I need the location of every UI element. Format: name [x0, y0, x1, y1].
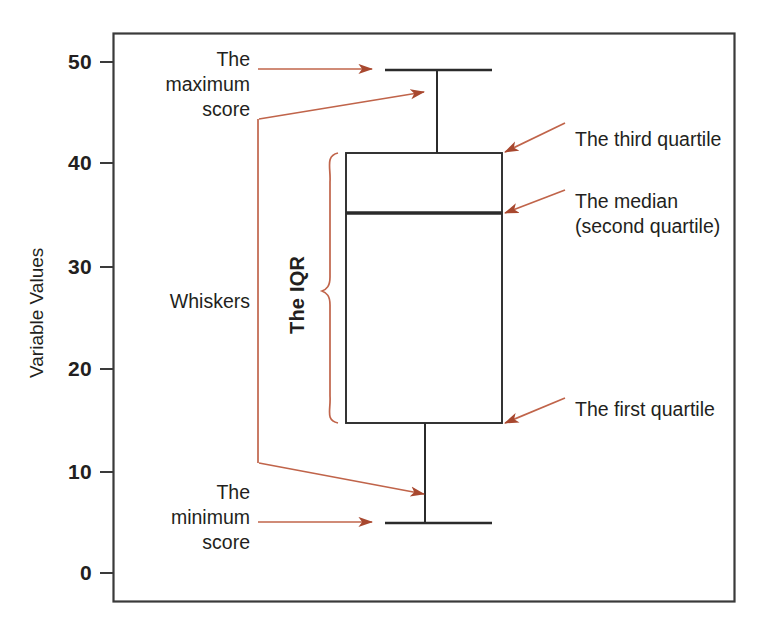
iqr-box [346, 153, 502, 423]
annotation-maximum-score-line2: maximum [120, 73, 250, 96]
annotation-minimum-score-line2: minimum [120, 506, 250, 529]
annotation-iqr: The IQR [286, 256, 310, 334]
annotation-maximum-score-line3: score [120, 98, 250, 121]
whiskers-lower-leader [259, 463, 424, 494]
annotation-third-quartile: The third quartile [575, 128, 721, 151]
y-tick-label-20: 20 [40, 357, 92, 382]
y-tick-label-0: 0 [40, 561, 92, 586]
boxplot-drawing [0, 0, 778, 620]
y-tick-label-10: 10 [40, 460, 92, 485]
y-tick-label-40: 40 [40, 151, 92, 176]
iqr-brace [322, 153, 338, 423]
boxplot-glyph [346, 70, 502, 523]
annotation-median-line1: The median [575, 190, 678, 213]
median-leader [505, 190, 565, 213]
whiskers-upper-leader [259, 92, 424, 119]
boxplot-anatomy-figure: Variable Values 50 40 30 20 10 0 The max… [0, 0, 778, 620]
annotation-minimum-score-line3: score [120, 531, 250, 554]
third-quartile-leader [505, 123, 565, 152]
y-tick-label-30: 30 [40, 255, 92, 280]
annotation-minimum-score-line1: The [120, 481, 250, 504]
y-axis-ticks [100, 62, 113, 573]
annotation-first-quartile: The first quartile [575, 398, 715, 421]
y-tick-label-50: 50 [40, 50, 92, 75]
first-quartile-leader [505, 398, 565, 423]
annotation-median-line2: (second quartile) [575, 215, 720, 238]
annotation-whiskers: Whiskers [130, 290, 250, 313]
annotation-maximum-score-line1: The [120, 48, 250, 71]
